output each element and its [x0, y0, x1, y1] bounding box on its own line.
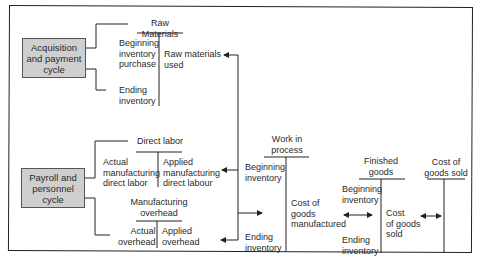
wip-credit: Cost of goods manufactured [291, 198, 346, 230]
payroll-personnel-cycle-label: Payroll and personnel cycle [29, 172, 77, 205]
cogs-title: Cost of goods sold [423, 157, 469, 178]
overhead-title: Manufacturing overhead [126, 197, 192, 218]
direct-labor-title: Direct labor [132, 136, 188, 147]
acquisition-payment-cycle-label: Acquisition and payment cycle [27, 42, 82, 75]
raw-materials-debit: Beginning inventory purchase [119, 38, 159, 70]
direct-labor-debit: Actual manufacturing direct labor [103, 157, 160, 189]
raw-materials-ending: Ending inventory [119, 85, 156, 106]
fg-credit: Cost of goods sold [386, 208, 421, 240]
overhead-debit: Actual overhead [118, 226, 156, 247]
wip-beginning: Beginning inventory [245, 162, 285, 183]
overhead-credit: Applied overhead [162, 226, 200, 247]
wip-title: Work in process [262, 134, 312, 155]
raw-materials-credit: Raw materials used [164, 49, 221, 70]
payroll-personnel-cycle-box: Payroll and personnel cycle [21, 168, 85, 208]
wip-ending: Ending inventory [245, 232, 282, 253]
fg-beginning: Beginning inventory [342, 184, 382, 205]
direct-labor-credit: Applied manufacturing direct labour [163, 157, 220, 189]
raw-materials-title: Raw Materials [132, 18, 188, 39]
fg-ending: Ending inventory [342, 235, 379, 256]
acquisition-payment-cycle-box: Acquisition and payment cycle [22, 38, 86, 78]
fg-title: Finished goods [355, 156, 407, 177]
